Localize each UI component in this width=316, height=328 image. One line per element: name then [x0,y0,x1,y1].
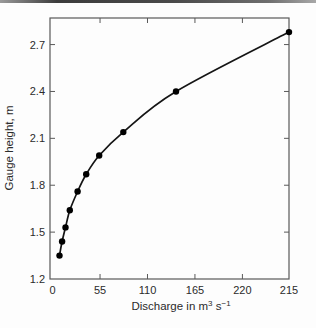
y-tick-label: 2.1 [30,132,45,144]
data-point-marker [62,224,68,230]
y-axis-label: Gauge height, m [3,105,15,190]
top-border-line [0,0,316,3]
rating-curve-figure: 0551101652202151.21.51.82.12.42.7 Gauge … [0,0,316,328]
data-point-marker [96,152,102,158]
x-tick-label: 220 [233,284,251,296]
data-point-marker [74,188,80,194]
y-tick-label: 2.4 [30,85,45,97]
data-points [56,29,292,259]
data-point-marker [83,171,89,177]
axis-ticks [50,18,289,279]
data-point-marker [59,238,65,244]
data-point-marker [56,252,62,258]
data-point-marker [286,29,292,35]
rating-curve-chart: 0551101652202151.21.51.82.12.42.7 Gauge … [0,0,316,328]
x-tick-label: 110 [139,284,157,296]
axis-tick-labels: 0551101652202151.21.51.82.12.42.7 [30,39,298,296]
rating-curve-line [60,32,290,256]
y-tick-label: 1.8 [30,179,45,191]
x-tick-label: 0 [50,284,56,296]
axis-frame [50,18,289,279]
x-tick-label: 55 [94,284,106,296]
x-axis-label: Discharge in m3 s−1 [131,299,231,313]
data-point-marker [173,88,179,94]
y-tick-label: 1.5 [30,226,45,238]
data-point-marker [120,129,126,135]
x-tick-label: 165 [186,284,204,296]
y-tick-label: 2.7 [30,39,45,51]
plot-border [50,18,289,279]
y-tick-label: 1.2 [30,273,45,285]
data-point-marker [67,207,73,213]
x-tick-label: 215 [280,284,298,296]
